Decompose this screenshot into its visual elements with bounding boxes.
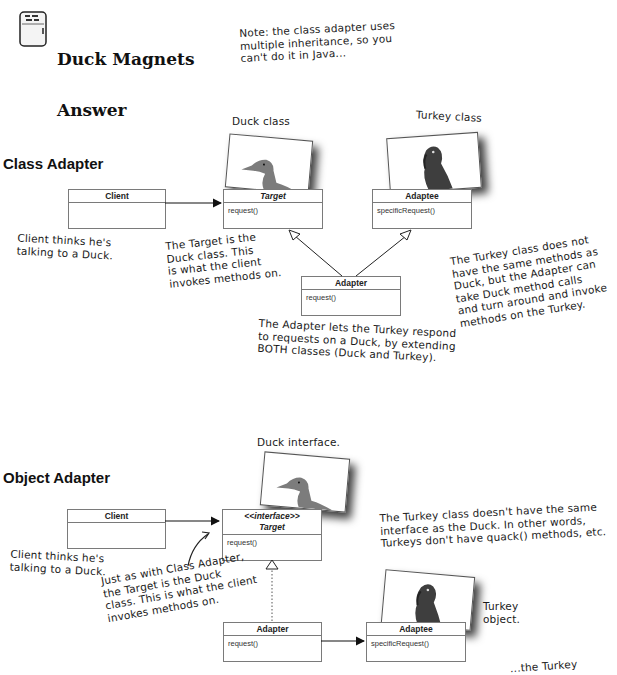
generalization-line [356,236,406,276]
realization-arrowhead [266,560,278,569]
generalization-line [295,236,342,276]
generalization-arrowhead [400,230,411,240]
